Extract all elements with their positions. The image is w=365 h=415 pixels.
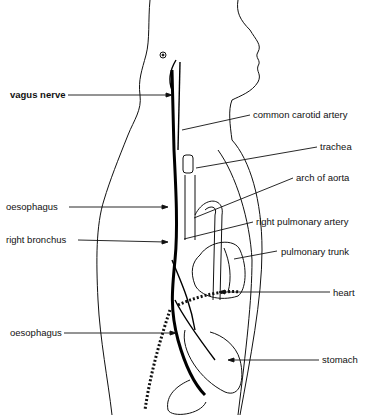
label-heart: heart <box>333 287 355 298</box>
label-trachea: trachea <box>320 141 352 152</box>
label-vagus-nerve: vagus nerve <box>10 89 65 100</box>
label-oesophagus-upper: oesophagus <box>6 201 58 212</box>
label-common-carotid-artery: common carotid artery <box>253 109 348 120</box>
label-arch-of-aorta: arch of aorta <box>296 172 349 183</box>
label-right-pulmonary-artery: right pulmonary artery <box>256 216 348 227</box>
label-stomach: stomach <box>322 354 358 365</box>
label-oesophagus-lower: oesophagus <box>10 327 62 338</box>
vagus-nerve-diagram: vagus nerve common carotid artery trache… <box>0 0 365 415</box>
label-pulmonary-trunk: pulmonary trunk <box>281 246 349 257</box>
label-right-bronchus: right bronchus <box>6 234 66 245</box>
